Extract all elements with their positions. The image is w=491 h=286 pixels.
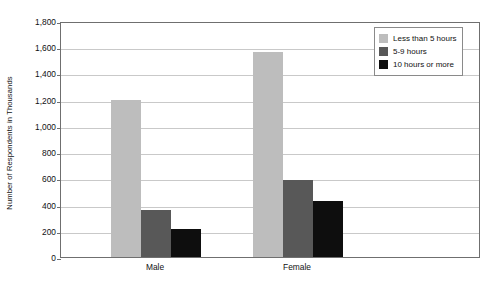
bar xyxy=(171,229,201,257)
y-axis-tick-mark xyxy=(57,259,61,260)
chart-legend: Less than 5 hours5-9 hours10 hours or mo… xyxy=(374,27,463,76)
y-axis-tick-label: 400 xyxy=(16,201,56,211)
x-axis-tick-label: Female xyxy=(283,262,311,272)
legend-item: 5-9 hours xyxy=(379,45,457,58)
y-axis-tick-label: 1,600 xyxy=(16,43,56,53)
y-axis-tick-label: 1,000 xyxy=(16,122,56,132)
legend-swatch-icon xyxy=(379,60,388,69)
y-axis-tick-labels: 1,8001,6001,4001,2001,0008006004002000 xyxy=(16,22,56,258)
y-axis-tick-label: 200 xyxy=(16,227,56,237)
legend-swatch-icon xyxy=(379,34,388,43)
legend-label: 10 hours or more xyxy=(393,61,454,69)
x-axis-tick-label: Male xyxy=(146,262,164,272)
bar-chart: Number of Respondents in Thousands 1,800… xyxy=(0,0,491,286)
y-axis-tick-label: 600 xyxy=(16,174,56,184)
legend-swatch-icon xyxy=(379,47,388,56)
bar xyxy=(313,201,343,257)
legend-label: Less than 5 hours xyxy=(393,35,457,43)
bar xyxy=(141,210,171,257)
y-axis-tick-label: 1,400 xyxy=(16,69,56,79)
bar xyxy=(111,100,141,257)
legend-item: Less than 5 hours xyxy=(379,32,457,45)
bar xyxy=(283,180,313,257)
y-axis-tick-label: 0 xyxy=(16,253,56,263)
legend-item: 10 hours or more xyxy=(379,58,457,71)
y-axis-tick-label: 1,200 xyxy=(16,96,56,106)
x-axis-tick-labels: MaleFemale xyxy=(60,262,480,278)
y-axis-tick-label: 800 xyxy=(16,148,56,158)
legend-label: 5-9 hours xyxy=(393,48,427,56)
bar xyxy=(253,52,283,257)
y-axis-tick-label: 1,800 xyxy=(16,17,56,27)
